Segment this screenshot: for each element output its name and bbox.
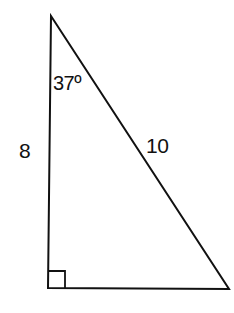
- triangle-diagram: [0, 0, 234, 313]
- side-label-hypotenuse: 10: [146, 135, 168, 156]
- angle-label-37-degrees: 37º: [53, 73, 81, 93]
- right-angle-marker: [48, 271, 65, 288]
- right-triangle: [48, 16, 229, 289]
- side-label-left-leg: 8: [19, 140, 31, 161]
